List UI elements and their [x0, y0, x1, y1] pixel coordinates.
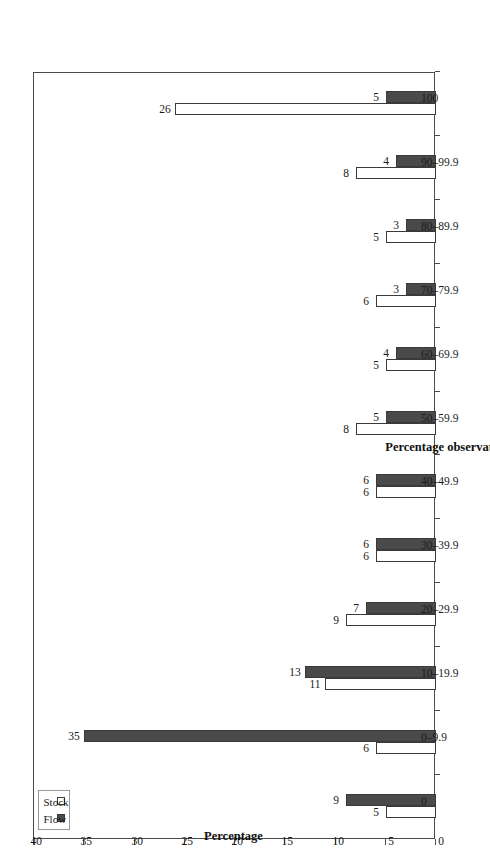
bar-value-label: 6	[356, 486, 376, 498]
legend-label-flow: Flow	[44, 813, 55, 825]
category-axis-label: 30–39.9	[421, 539, 481, 551]
category-axis-tick	[435, 71, 440, 72]
bar-stock	[386, 806, 436, 818]
bar-stock	[386, 231, 436, 243]
category-axis-tick	[435, 199, 440, 200]
bar-stock	[175, 103, 436, 115]
bar-stock	[346, 614, 436, 626]
category-axis-tick	[435, 646, 440, 647]
bar-value-label: 5	[366, 91, 386, 103]
bar-value-label: 8	[336, 423, 356, 435]
bar-stock	[356, 167, 436, 179]
category-axis-label: 0–9.9	[421, 731, 481, 743]
category-axis-label: 0	[421, 795, 481, 807]
category-axis-label: 40–49.9	[421, 475, 481, 487]
category-axis-tick	[435, 582, 440, 583]
category-axis-tick	[435, 135, 440, 136]
value-axis-tick-label: 35	[70, 835, 92, 847]
rotated-chart-canvas: 9535613117966665845363548526 05101520253…	[0, 0, 490, 852]
bar-stock	[386, 359, 436, 371]
bar-value-label: 6	[356, 550, 376, 562]
value-axis-title: Percentage	[184, 829, 284, 844]
category-axis-label: 70–79.9	[421, 284, 481, 296]
legend-item-stock: Stock	[43, 796, 65, 807]
bar-value-label: 9	[326, 794, 346, 806]
bar-value-label: 11	[305, 678, 325, 690]
bar-value-label: 5	[366, 231, 386, 243]
category-axis-label: 90–99.9	[421, 156, 481, 168]
category-axis-tick	[435, 518, 440, 519]
chart-figure: 9535613117966665845363548526 05101520253…	[0, 0, 490, 852]
bar-value-label: 7	[346, 602, 366, 614]
bar-value-label: 6	[356, 474, 376, 486]
bar-value-label: 13	[285, 666, 305, 678]
value-axis-tick-label: 10	[322, 835, 344, 847]
bar-value-label: 5	[366, 806, 386, 818]
bar-stock	[356, 423, 436, 435]
bar-value-label: 4	[376, 155, 396, 167]
legend: Flow Stock	[38, 790, 70, 830]
value-axis-tick-label: 5	[372, 835, 394, 847]
category-axis-label: 50–59.9	[421, 412, 481, 424]
bar-value-label: 3	[386, 283, 406, 295]
bar-flow	[84, 730, 436, 742]
legend-item-flow: Flow	[43, 813, 65, 824]
bar-stock	[325, 678, 436, 690]
bar-value-label: 4	[376, 347, 396, 359]
category-axis-label: 60–69.9	[421, 348, 481, 360]
category-axis-tick	[435, 391, 440, 392]
bar-stock	[376, 742, 436, 754]
bar-flow	[305, 666, 436, 678]
bar-stock	[376, 295, 436, 307]
category-axis-tick	[435, 263, 440, 264]
bar-stock	[376, 550, 436, 562]
category-axis-label: 20–29.9	[421, 603, 481, 615]
category-axis-label: 80–89.9	[421, 220, 481, 232]
category-axis-title: Percentage observation period on benefit	[385, 441, 490, 456]
bar-stock	[376, 486, 436, 498]
bar-value-label: 26	[155, 103, 175, 115]
value-axis-tick-label: 0	[422, 835, 444, 847]
value-axis-tick-label: 30	[121, 835, 143, 847]
bar-value-label: 35	[64, 730, 84, 742]
category-axis-label: 100	[421, 92, 481, 104]
category-axis-tick	[435, 710, 440, 711]
value-axis-tick-label: 40	[20, 835, 42, 847]
category-axis-tick	[435, 327, 440, 328]
bar-value-label: 6	[356, 538, 376, 550]
category-axis-tick	[435, 774, 440, 775]
legend-label-stock: Stock	[44, 796, 55, 808]
bar-value-label: 5	[366, 359, 386, 371]
bar-value-label: 5	[366, 411, 386, 423]
bar-value-label: 6	[356, 295, 376, 307]
bar-value-label: 6	[356, 742, 376, 754]
category-axis-label: 10–19.9	[421, 667, 481, 679]
bar-value-label: 8	[336, 167, 356, 179]
bar-value-label: 3	[386, 219, 406, 231]
plot-area: 9535613117966665845363548526	[33, 72, 435, 839]
bar-value-label: 9	[326, 614, 346, 626]
